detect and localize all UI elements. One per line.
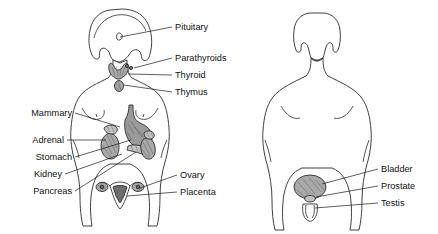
testis-organ <box>303 204 318 221</box>
ovary-left-center <box>100 185 104 189</box>
label-thyroid: Thyroid <box>175 70 206 80</box>
label-placenta: Placenta <box>180 187 217 197</box>
label-pancreas: Pancreas <box>33 186 72 196</box>
label-mammary: Mammary <box>31 108 72 118</box>
leader-parathyroids <box>134 58 172 68</box>
label-pituitary: Pituitary <box>175 22 209 32</box>
kidney-right <box>141 138 156 159</box>
label-adrenal: Adrenal <box>32 135 64 145</box>
label-testis: Testis <box>381 198 405 208</box>
leader-testis <box>315 203 378 208</box>
male-figure-group <box>263 13 372 230</box>
leader-thyroid <box>128 74 172 75</box>
label-bladder: Bladder <box>381 164 413 174</box>
prostate-organ <box>305 196 316 203</box>
adrenal-gland-right <box>144 131 154 139</box>
ovary-right-center <box>136 185 140 189</box>
female-figure-group <box>71 9 170 226</box>
label-prostate: Prostate <box>381 181 415 191</box>
diagram-canvas: Pituitary Parathyroids Thyroid Thymus Ov… <box>0 0 438 234</box>
label-kidney: Kidney <box>34 169 62 179</box>
label-stomach: Stomach <box>36 152 72 162</box>
label-ovary: Ovary <box>180 170 205 180</box>
male-head-outline <box>294 13 341 60</box>
label-parathyroids: Parathyroids <box>175 53 227 63</box>
kidney-left <box>101 133 119 159</box>
parathyroid-gland-left <box>125 64 128 67</box>
endocrine-anatomy-diagram: Pituitary Parathyroids Thyroid Thymus Ov… <box>0 0 438 234</box>
label-thymus: Thymus <box>175 87 208 97</box>
parathyroid-gland-right <box>129 66 132 69</box>
